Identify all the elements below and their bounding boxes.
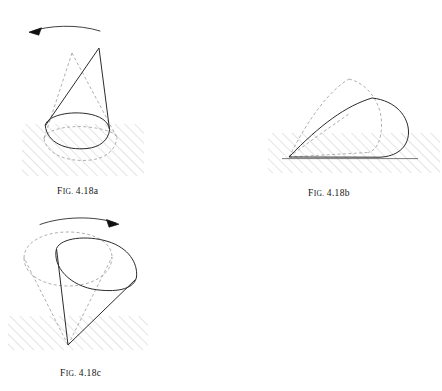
caption-a-prefix: FIG. — [57, 186, 74, 196]
caption-c-prefix: FIG. — [60, 368, 77, 378]
rotation-arrow-right — [40, 218, 119, 227]
caption-b-number: 4.18b — [327, 188, 350, 198]
cone-c-rim-back — [57, 238, 137, 277]
caption-c-number: 4.18c — [79, 368, 102, 378]
ground-hatching-a — [22, 124, 144, 176]
ground-hatching-c — [8, 316, 148, 350]
caption-fig-a: FIG.4.18a — [57, 186, 98, 196]
caption-a-number: 4.18a — [76, 186, 99, 196]
figure-a — [22, 26, 144, 176]
caption-fig-b: FIG.4.18b — [308, 188, 350, 198]
caption-fig-c: FIG.4.18c — [60, 368, 101, 378]
figure-b — [268, 79, 440, 173]
rotation-arrow-left — [29, 26, 100, 35]
figure-c — [8, 218, 148, 350]
cone-a-right-edge — [99, 48, 110, 129]
caption-b-prefix: FIG. — [308, 188, 325, 198]
cone-c-rim-front — [56, 249, 137, 291]
cone-c-dashed-rim-back — [24, 232, 112, 258]
cone-c-dashed-rim-front — [24, 257, 112, 286]
